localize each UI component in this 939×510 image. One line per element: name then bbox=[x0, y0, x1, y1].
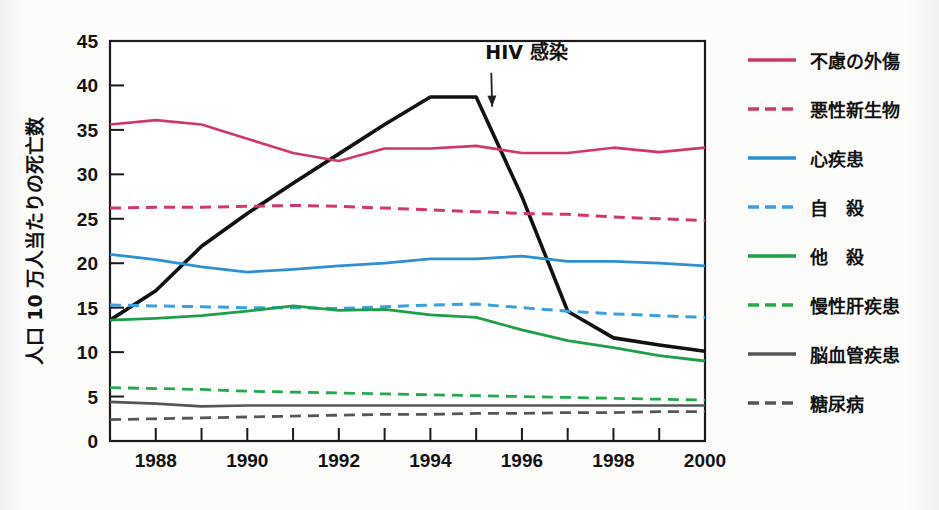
x-axis-tick-label: 1988 bbox=[135, 450, 177, 471]
x-axis-tick-label: 1994 bbox=[409, 450, 452, 471]
chart-legend: 不慮の外傷悪性新生物心疾患自 殺他 殺慢性肝疾患脳血管疾患糖尿病 bbox=[748, 51, 900, 415]
plot-frame bbox=[110, 41, 705, 441]
plot-area bbox=[110, 41, 705, 441]
y-axis-tick-label: 5 bbox=[87, 387, 98, 408]
legend-label-悪性新生物[interactable]: 悪性新生物 bbox=[810, 100, 900, 121]
x-axis-tick-label: 1998 bbox=[592, 450, 634, 471]
legend-label-糖尿病[interactable]: 糖尿病 bbox=[810, 394, 864, 415]
x-axis-tick-label: 1992 bbox=[318, 450, 360, 471]
y-axis-tick-label: 35 bbox=[77, 120, 99, 141]
y-axis-tick-label: 40 bbox=[77, 75, 98, 96]
y-axis-title: 人口 10 万人当たりの死亡数 bbox=[24, 116, 46, 366]
y-axis-tick-label: 45 bbox=[77, 31, 99, 52]
line-chart: 051015202530354045 198819901992199419961… bbox=[0, 0, 939, 510]
y-axis-tick-label: 25 bbox=[77, 209, 99, 230]
legend-label-他 殺[interactable]: 他 殺 bbox=[809, 247, 865, 268]
x-axis-tick-label: 1996 bbox=[501, 450, 543, 471]
legend-label-脳血管疾患[interactable]: 脳血管疾患 bbox=[810, 345, 900, 366]
y-axis-tick-label: 15 bbox=[77, 298, 99, 319]
x-axis-tick-label: 1990 bbox=[226, 450, 268, 471]
figure-page: 051015202530354045 198819901992199419961… bbox=[0, 0, 939, 510]
x-axis-tick-label: 2000 bbox=[684, 450, 726, 471]
legend-label-慢性肝疾患[interactable]: 慢性肝疾患 bbox=[810, 296, 900, 317]
y-axis-tick-label: 20 bbox=[77, 253, 98, 274]
legend-label-心疾患[interactable]: 心疾患 bbox=[810, 149, 864, 170]
y-axis-tick-label: 10 bbox=[77, 342, 98, 363]
y-axis-tick-label: 30 bbox=[77, 164, 98, 185]
y-axis-tick-label: 0 bbox=[87, 431, 98, 452]
legend-label-不慮の外傷[interactable]: 不慮の外傷 bbox=[810, 51, 900, 72]
legend-label-自 殺[interactable]: 自 殺 bbox=[810, 198, 865, 219]
chart-figure: 051015202530354045 198819901992199419961… bbox=[0, 0, 939, 510]
annotation-label: HIV 感染 bbox=[485, 41, 567, 63]
